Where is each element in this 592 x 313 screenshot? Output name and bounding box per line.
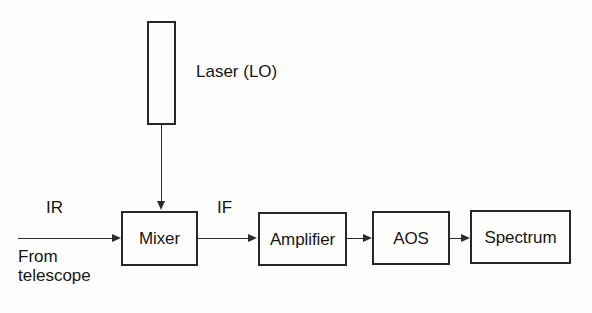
connector-lo-signal-line (161, 125, 162, 202)
arrow-right-icon-amp-to-aos (363, 234, 372, 242)
from-telescope-line-1: From (18, 247, 91, 266)
block-spectrum-label: Spectrum (485, 229, 557, 246)
block-spectrum: Spectrum (470, 210, 571, 264)
from-telescope-line-2: telescope (18, 266, 91, 285)
arrow-right-icon-aos-to-spectrum (461, 234, 470, 242)
block-aos-label: AOS (393, 230, 429, 247)
connector-if-signal-line (198, 238, 249, 239)
arrow-right-icon-input-signal (112, 234, 121, 242)
if-signal-label: IF (217, 198, 232, 217)
block-aos: AOS (372, 211, 450, 265)
connector-amp-to-aos-line (347, 238, 364, 239)
connector-input-signal-line (18, 238, 113, 239)
arrow-right-icon-if-signal (248, 234, 257, 242)
laser-caption-label: Laser (LO) (196, 62, 277, 81)
block-mixer-label: Mixer (139, 230, 180, 247)
block-amplifier-label: Amplifier (270, 231, 335, 248)
diagram-canvas: Mixer Amplifier AOS Spectrum Laser (LO) … (0, 0, 592, 313)
block-amplifier: Amplifier (258, 212, 347, 266)
arrow-down-icon-lo-signal (157, 201, 165, 210)
ir-signal-label: IR (46, 198, 63, 217)
block-mixer: Mixer (121, 211, 198, 266)
from-telescope-label: From telescope (18, 247, 91, 285)
block-laser (147, 21, 176, 125)
